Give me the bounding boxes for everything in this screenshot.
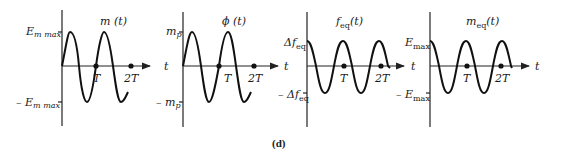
y-min-label: – Δfeq	[278, 88, 309, 103]
tick-dot-2T	[378, 63, 383, 68]
panel-title: m (t)	[100, 15, 127, 28]
tick-label-T: T	[224, 72, 233, 85]
panel-title: meq(t)	[466, 15, 499, 30]
panel-meq-of-t: t T 2T meq(t) Emax – Emax t	[396, 12, 540, 127]
tick-label-T: T	[463, 72, 472, 85]
waveform-figure: T 2T m (t) Em max – Em max t T 2T ϕ (t) …	[0, 0, 561, 160]
t-axis-label: t	[284, 60, 289, 73]
tick-dot-T	[93, 63, 98, 68]
panel-title: feq(t)	[335, 15, 363, 30]
y-min-label: – Emax	[396, 88, 430, 103]
figure-caption: (d)	[272, 137, 286, 150]
t-axis-label: t	[411, 60, 416, 73]
tick-label-2T: 2T	[123, 72, 140, 85]
t-axis-label: t	[535, 60, 540, 73]
y-min-label: – mp	[156, 96, 181, 110]
panel-title: ϕ (t)	[222, 15, 246, 28]
t-axis-label: t	[164, 60, 169, 73]
y-max-label: Δfeq	[283, 36, 306, 51]
tick-label-T: T	[340, 72, 349, 85]
tick-dot-T	[464, 63, 469, 68]
y-max-label: Emax	[404, 36, 430, 51]
tick-label-T: T	[93, 72, 102, 85]
y-max-label: Em max	[25, 25, 62, 39]
y-min-label: – Em max	[16, 96, 61, 110]
panel-phi-of-t: t T 2T ϕ (t) mp – mp	[156, 12, 278, 127]
panel-m-of-t: T 2T m (t) Em max – Em max	[16, 10, 150, 126]
tick-dot-2T	[251, 63, 256, 68]
tick-label-2T: 2T	[374, 72, 391, 85]
tick-dot-2T	[498, 63, 503, 68]
feq-waveform	[307, 41, 390, 93]
y-max-label: mp	[166, 25, 182, 39]
tick-label-2T: 2T	[247, 72, 264, 85]
tick-dot-2T	[128, 63, 133, 68]
tick-dot-T	[341, 63, 346, 68]
tick-dot-T	[216, 63, 221, 68]
panel-feq-of-t: t T 2T feq(t) Δfeq – Δfeq	[278, 12, 404, 127]
tick-label-2T: 2T	[494, 72, 511, 85]
